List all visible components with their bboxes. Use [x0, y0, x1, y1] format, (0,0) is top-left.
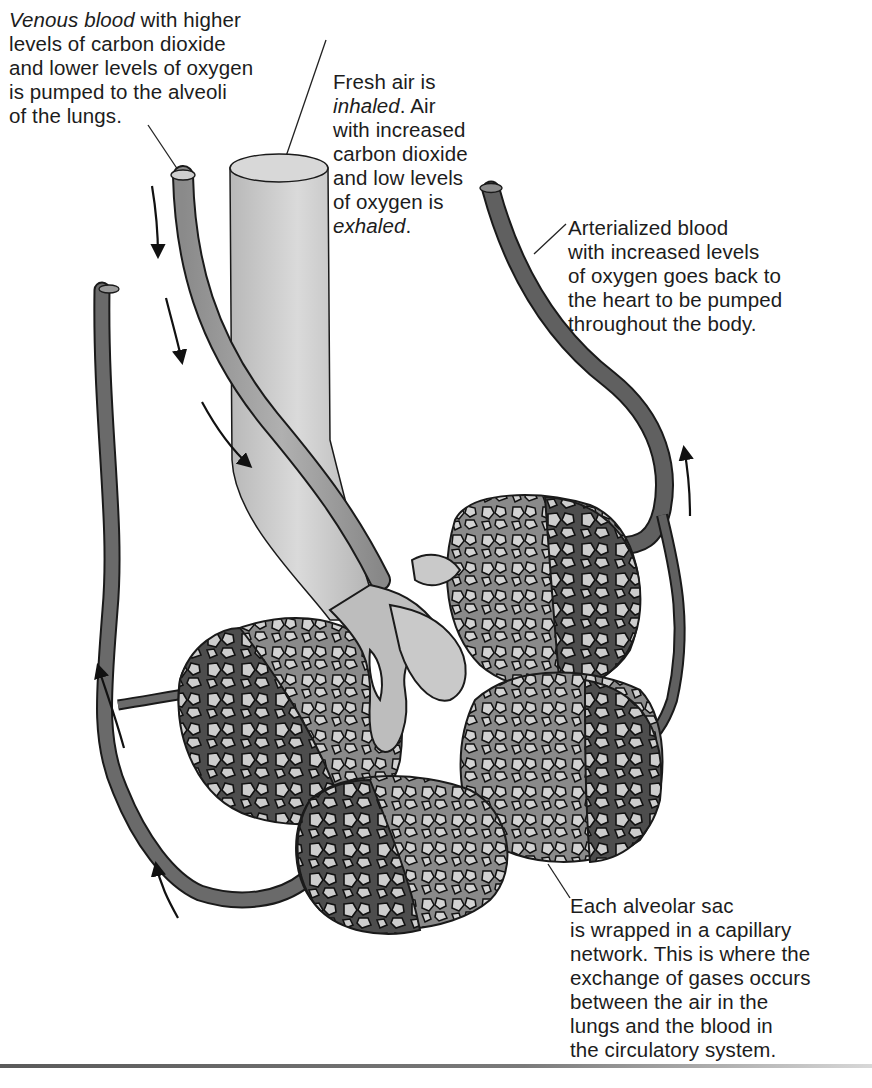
alveolar-label-line: network. This is where the: [570, 942, 811, 966]
alveolar-sac-label: Each alveolar sac is wrapped in a capill…: [570, 894, 811, 1062]
arrow-venous-down-2: [166, 298, 182, 362]
alveolar-label-line: exchange of gases occurs: [570, 966, 811, 990]
venous-blood-term: Venous blood: [9, 8, 135, 31]
alveolar-label-line: lungs and the blood in: [570, 1014, 811, 1038]
venous-label-text: with higher: [135, 8, 241, 31]
air-label-line: Fresh air is: [333, 70, 468, 94]
venous-label-line: and lower levels of oxygen: [9, 56, 253, 80]
venous-label-line: levels of carbon dioxide: [9, 32, 253, 56]
alveolar-label-line: is wrapped in a capillary: [570, 918, 811, 942]
air-label-line: of oxygen is: [333, 190, 468, 214]
alveolar-label-line: Each alveolar sac: [570, 894, 811, 918]
air-label-line: and low levels: [333, 166, 468, 190]
alveolar-cluster: [178, 495, 662, 934]
exhaled-term: exhaled: [333, 214, 406, 237]
venous-label-line: of the lungs.: [9, 104, 253, 128]
venous-label-line: is pumped to the alveoli: [9, 80, 253, 104]
arrow-arterial-up: [684, 448, 690, 516]
alveolar-label-line: between the air in the: [570, 990, 811, 1014]
venous-blood-label: Venous blood with higher levels of carbo…: [9, 8, 253, 128]
arterialized-blood-label: Arterialized blood with increased levels…: [568, 216, 782, 336]
air-label-text: .: [406, 214, 412, 237]
arterial-label-line: throughout the body.: [568, 312, 782, 336]
bottom-divider: [0, 1064, 872, 1068]
inhaled-term: inhaled: [333, 94, 400, 117]
arterial-label-line: Arterialized blood: [568, 216, 782, 240]
alveolar-label-line: the circulatory system.: [570, 1038, 811, 1062]
air-label-line: with increased: [333, 118, 468, 142]
arterial-label-line: with increased levels: [568, 240, 782, 264]
arterial-label-line: the heart to be pumped: [568, 288, 782, 312]
air-label-line: carbon dioxide: [333, 142, 468, 166]
arrow-venous-down-1: [152, 186, 158, 256]
arterial-label-line: of oxygen goes back to: [568, 264, 782, 288]
air-flow-label: Fresh air is inhaled. Air with increased…: [333, 70, 468, 238]
left-vessel-opening: [99, 285, 119, 293]
airway-opening: [230, 154, 328, 182]
air-label-text: . Air: [400, 94, 436, 117]
